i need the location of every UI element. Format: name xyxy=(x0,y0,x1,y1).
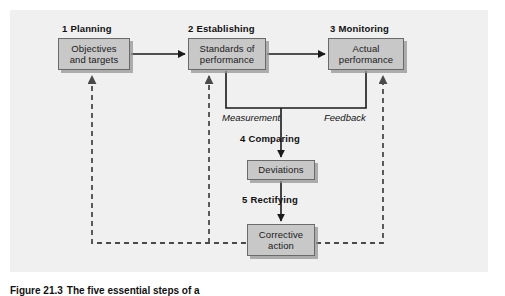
stage-name-5: Rectifying xyxy=(250,194,297,205)
stage-label-rectifying: 5Rectifying xyxy=(242,194,298,205)
node-deviations: Deviations xyxy=(247,160,315,180)
node-standards-of-performance: Standards of performance xyxy=(188,38,266,70)
stage-label-establishing: 2Establishing xyxy=(188,23,255,34)
figure-caption-number: Figure 21.3 xyxy=(10,285,63,296)
stage-number-3: 3 xyxy=(330,23,335,34)
figure-caption: Figure 21.3The five essential steps of a xyxy=(10,285,488,296)
stage-label-planning: 1Planning xyxy=(62,23,112,34)
node-actual-performance: Actual performance xyxy=(328,38,404,70)
stage-name-2: Establishing xyxy=(196,23,254,34)
stage-number-4: 4 xyxy=(240,133,245,144)
node-objectives-and-targets: Objectives and targets xyxy=(58,38,130,70)
annotation-measurement: Measurement xyxy=(222,112,280,123)
node-corrective-action: Corrective action xyxy=(247,224,315,256)
stage-number-2: 2 xyxy=(188,23,193,34)
stage-name-1: Planning xyxy=(70,23,111,34)
stage-number-1: 1 xyxy=(62,23,67,34)
stage-name-3: Monitoring xyxy=(338,23,389,34)
figure-caption-text: The five essential steps of a xyxy=(67,285,200,296)
figure-root: 1Planning 2Establishing 3Monitoring 4Com… xyxy=(0,0,505,296)
stage-name-4: Comparing xyxy=(248,133,300,144)
stage-label-comparing: 4Comparing xyxy=(240,133,300,144)
stage-number-5: 5 xyxy=(242,194,247,205)
annotation-feedback: Feedback xyxy=(324,112,366,123)
stage-label-monitoring: 3Monitoring xyxy=(330,23,389,34)
